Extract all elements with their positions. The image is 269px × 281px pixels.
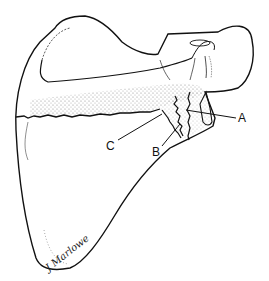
supraspinous-curve bbox=[42, 28, 70, 60]
label-b: B bbox=[152, 146, 160, 158]
scapula-drawing bbox=[0, 0, 269, 281]
scapula-outline bbox=[16, 16, 253, 270]
acromion bbox=[192, 41, 215, 58]
leader-b bbox=[162, 124, 180, 146]
leader-c bbox=[118, 114, 162, 140]
label-c: C bbox=[106, 140, 115, 152]
label-a: A bbox=[238, 112, 246, 124]
scapula-diagram: A B C J Marlowe bbox=[0, 0, 269, 281]
